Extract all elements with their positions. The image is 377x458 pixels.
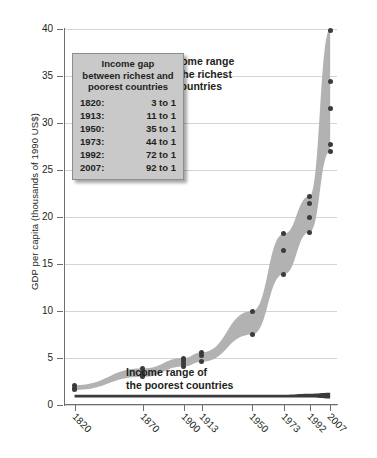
- y-tick: [57, 311, 63, 312]
- legend-row-value: 3 to 1: [151, 96, 176, 109]
- legend-row-year: 1973:: [80, 135, 104, 148]
- data-point: [307, 230, 312, 235]
- legend-title-line: between richest and: [80, 70, 176, 82]
- legend-row: 1950:35 to 1: [80, 122, 176, 135]
- y-tick: [57, 405, 63, 406]
- annotation-line: the poorest countries: [126, 379, 276, 392]
- y-axis-title: GDP per capita (thousands of 1990 US$): [29, 72, 40, 332]
- x-tick-label: 1870: [138, 411, 162, 435]
- x-tick: [75, 405, 76, 411]
- x-tick: [252, 405, 253, 411]
- y-tick: [57, 76, 63, 77]
- y-tick: [57, 358, 63, 359]
- income-gap-legend-box: Income gapbetween richest andpoorest cou…: [72, 53, 184, 180]
- legend-row-year: 1913:: [80, 109, 104, 122]
- legend-row-value: 11 to 1: [146, 109, 176, 122]
- x-tick-label: 2007: [325, 411, 349, 435]
- legend-row-value: 92 to 1: [146, 161, 176, 174]
- y-tick-label: 40: [23, 24, 53, 34]
- y-tick-label: 20: [23, 212, 53, 222]
- y-tick: [57, 29, 63, 30]
- legend-row-year: 2007:: [80, 161, 104, 174]
- y-tick-label: 10: [23, 306, 53, 316]
- x-tick-label: 1900: [179, 411, 203, 435]
- data-point: [281, 272, 286, 277]
- data-point: [250, 309, 255, 314]
- x-tick-label: 1950: [247, 411, 271, 435]
- y-tick-label: 35: [23, 71, 53, 81]
- legend-row: 1913:11 to 1: [80, 109, 176, 122]
- x-tick: [330, 405, 331, 411]
- x-tick-label: 1913: [197, 411, 221, 435]
- data-point: [307, 194, 312, 199]
- y-tick-label: 0: [23, 400, 53, 410]
- legend-title-line: poorest countries: [80, 81, 176, 93]
- x-tick: [310, 405, 311, 411]
- annotation-line: Income range of: [126, 366, 276, 379]
- x-tick-label: 1973: [279, 411, 303, 435]
- y-tick-label: 25: [23, 165, 53, 175]
- y-tick: [57, 217, 63, 218]
- poorest-countries-band: [75, 393, 331, 399]
- legend-row-year: 1950:: [80, 122, 104, 135]
- legend-row-value: 72 to 1: [146, 148, 176, 161]
- data-point: [199, 353, 204, 358]
- gdp-per-capita-chart: GDP per capita (thousands of 1990 US$) 0…: [0, 0, 377, 458]
- x-tick: [184, 405, 185, 411]
- data-point: [328, 79, 333, 84]
- x-tick-label: 1992: [305, 411, 329, 435]
- legend-row: 1820:3 to 1: [80, 96, 176, 109]
- x-tick-label: 1820: [70, 411, 94, 435]
- y-tick-label: 5: [23, 353, 53, 363]
- legend-title: Income gapbetween richest andpoorest cou…: [80, 58, 176, 93]
- x-tick: [202, 405, 203, 411]
- legend-rows: 1820:3 to 11913:11 to 11950:35 to 11973:…: [80, 96, 176, 174]
- legend-row-year: 1820:: [80, 96, 104, 109]
- legend-row-value: 44 to 1: [146, 135, 176, 148]
- legend-title-line: Income gap: [80, 58, 176, 70]
- legend-row: 1973:44 to 1: [80, 135, 176, 148]
- y-tick-label: 30: [23, 118, 53, 128]
- data-point: [328, 149, 333, 154]
- legend-row-value: 35 to 1: [146, 122, 176, 135]
- annotation-poorest: Income range ofthe poorest countries: [126, 366, 276, 391]
- legend-row-year: 1992:: [80, 148, 104, 161]
- legend-row: 2007:92 to 1: [80, 161, 176, 174]
- legend-row: 1992:72 to 1: [80, 148, 176, 161]
- y-tick: [57, 123, 63, 124]
- x-tick: [284, 405, 285, 411]
- y-tick: [57, 264, 63, 265]
- x-tick: [143, 405, 144, 411]
- y-tick: [57, 170, 63, 171]
- y-tick-label: 15: [23, 259, 53, 269]
- data-point: [328, 142, 333, 147]
- data-point: [250, 332, 255, 337]
